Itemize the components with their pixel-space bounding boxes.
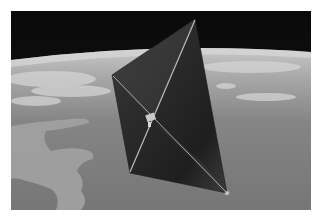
solar-sail-photo [11,11,311,210]
scene [11,11,311,210]
